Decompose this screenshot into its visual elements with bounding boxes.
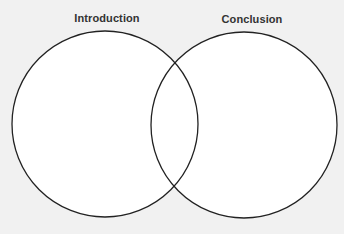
venn-diagram: Introduction Conclusion: [0, 0, 344, 234]
venn-circles: [0, 0, 344, 234]
conclusion-label: Conclusion: [222, 13, 283, 25]
conclusion-circle-fill: [151, 32, 337, 218]
introduction-label: Introduction: [74, 12, 139, 24]
